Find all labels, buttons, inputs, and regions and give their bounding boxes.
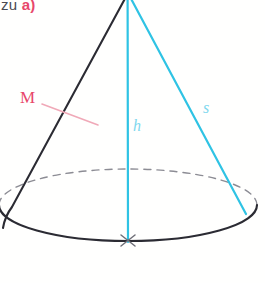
cone-diagram [0,0,265,283]
cone-slant-line-s [129,0,247,214]
label-height-h: h [133,118,141,134]
heading-accent: a) [22,0,36,13]
lateral-surface-tick-mark [42,104,98,125]
label-slant-s: s [203,100,209,116]
cone-figure: zu a) M h s [0,0,265,283]
label-lateral-surface-m: M [20,89,35,106]
heading-prefix: zu [1,0,22,13]
heading-zu-a: zu a) [1,0,35,12]
cone-left-slant-edge [3,0,128,228]
